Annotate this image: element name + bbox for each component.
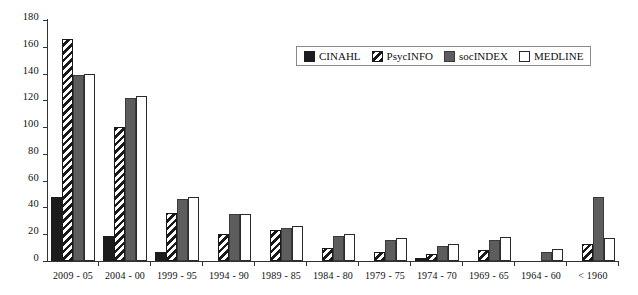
x-axis-label: 1994 - 90 — [203, 270, 255, 282]
bar-medline-5 — [344, 234, 355, 261]
bar-group — [47, 20, 99, 261]
bar-socindex-8 — [489, 240, 500, 261]
x-axis-tick — [99, 261, 151, 267]
x-axis-tick — [151, 261, 203, 267]
bar-psycinfo-4 — [270, 230, 281, 261]
bar-psycinfo-6 — [374, 252, 385, 261]
y-axis-tick-label: 0 — [34, 253, 39, 264]
x-axis-label: 1984 - 80 — [307, 270, 359, 282]
bar-medline-1 — [136, 96, 147, 261]
bar-group — [99, 20, 151, 261]
bar-psycinfo-7 — [426, 254, 437, 261]
x-axis-label: 2009 - 05 — [47, 270, 99, 282]
y-axis-tick-label: 40 — [28, 199, 39, 210]
bar-cinahl-0 — [51, 197, 62, 261]
bar-socindex-7 — [437, 246, 448, 261]
bar-medline-3 — [240, 214, 251, 261]
x-axis-label: 1964 - 60 — [515, 270, 567, 282]
bar-medline-9 — [552, 249, 563, 261]
x-axis-label: 1999 - 95 — [151, 270, 203, 282]
x-axis-tick — [411, 261, 463, 267]
x-axis-tick — [255, 261, 307, 267]
x-axis-tick — [47, 261, 99, 267]
bar-medline-7 — [448, 244, 459, 261]
y-axis-tick-label: 100 — [23, 119, 39, 130]
bar-cinahl-1 — [103, 236, 114, 261]
x-axis-label: 1989 - 85 — [255, 270, 307, 282]
bar-medline-2 — [188, 197, 199, 261]
legend-swatch-icon — [444, 51, 455, 62]
bar-psycinfo-5 — [322, 248, 333, 261]
x-axis-tick — [359, 261, 411, 267]
bar-socindex-3 — [229, 214, 240, 261]
x-axis-tick — [567, 261, 619, 267]
bar-medline-10 — [604, 238, 615, 261]
x-axis-ticks — [47, 261, 619, 267]
legend-swatch-icon — [304, 51, 315, 62]
x-axis-label: < 1960 — [567, 270, 619, 282]
legend-swatch-icon — [519, 51, 530, 62]
bar-socindex-9 — [541, 252, 552, 261]
chart-legend: CINAHLPsycINFOsocINDEXMEDLINE — [296, 46, 591, 66]
legend-label: socINDEX — [459, 50, 508, 62]
bar-psycinfo-1 — [114, 127, 125, 261]
bar-socindex-5 — [333, 236, 344, 261]
y-axis-tick-label: 180 — [23, 12, 39, 23]
x-axis-tick — [203, 261, 255, 267]
x-axis-tick — [515, 261, 567, 267]
y-axis-tick-label: 160 — [23, 39, 39, 50]
legend-item-medline: MEDLINE — [519, 50, 584, 62]
x-axis-label: 2004 - 00 — [99, 270, 151, 282]
legend-item-psycinfo: PsycINFO — [372, 50, 433, 62]
y-axis-tick-label: 120 — [23, 92, 39, 103]
legend-label: MEDLINE — [534, 50, 584, 62]
bar-psycinfo-8 — [478, 250, 489, 261]
legend-item-socindex: socINDEX — [444, 50, 508, 62]
x-axis-tick — [463, 261, 515, 267]
x-axis-tick — [307, 261, 359, 267]
y-axis-tick-label: 20 — [28, 226, 39, 237]
bar-socindex-4 — [281, 228, 292, 261]
bar-group — [151, 20, 203, 261]
x-axis-label: 1979 - 75 — [359, 270, 411, 282]
bar-cinahl-2 — [155, 252, 166, 261]
x-axis-labels: 2009 - 052004 - 001999 - 951994 - 901989… — [47, 270, 619, 282]
bar-psycinfo-2 — [166, 213, 177, 261]
bar-socindex-0 — [73, 75, 84, 261]
bar-group — [203, 20, 255, 261]
x-axis-label: 1969 - 65 — [463, 270, 515, 282]
bar-medline-6 — [396, 238, 407, 261]
y-axis-tick-label: 80 — [28, 146, 39, 157]
bar-psycinfo-0 — [62, 39, 73, 261]
y-axis-tick-label: 60 — [28, 173, 39, 184]
bar-psycinfo-3 — [218, 234, 229, 261]
legend-label: PsycINFO — [387, 50, 433, 62]
bar-socindex-1 — [125, 98, 136, 261]
bar-socindex-6 — [385, 240, 396, 261]
bar-medline-0 — [84, 74, 95, 261]
bar-socindex-10 — [593, 197, 604, 261]
y-axis-tick-label: 140 — [23, 66, 39, 77]
legend-label: CINAHL — [319, 50, 361, 62]
legend-swatch-icon — [372, 51, 383, 62]
y-axis-ticks: 020406080100120140160180 — [0, 0, 47, 295]
bar-medline-4 — [292, 226, 303, 261]
bar-medline-8 — [500, 237, 511, 261]
bar-psycinfo-10 — [582, 244, 593, 261]
legend-item-cinahl: CINAHL — [304, 50, 361, 62]
bar-chart: 020406080100120140160180 2009 - 052004 -… — [0, 0, 638, 295]
bar-socindex-2 — [177, 199, 188, 261]
x-axis-label: 1974 - 70 — [411, 270, 463, 282]
